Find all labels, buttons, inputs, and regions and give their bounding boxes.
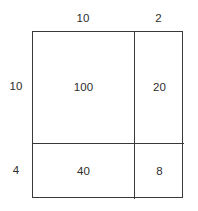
area-model-cell-top-right: 20 [135, 32, 184, 144]
area-model-cell-top-left-value: 100 [74, 82, 94, 94]
area-model-grid: 100 20 40 8 [32, 31, 183, 198]
column-label-top-left-text: 10 [77, 13, 90, 25]
column-label-top-right-text: 2 [155, 13, 162, 25]
row-label-left-bottom: 4 [0, 143, 32, 198]
area-model-cell-bottom-left-value: 40 [77, 166, 90, 178]
area-model-cell-top-right-value: 20 [153, 82, 166, 94]
column-label-top-left: 10 [32, 12, 134, 25]
row-label-left-bottom-text: 4 [13, 165, 20, 177]
area-model-cell-bottom-right: 8 [135, 144, 184, 199]
area-model-cell-bottom-right-value: 8 [156, 166, 163, 178]
row-label-left-top-text: 10 [10, 81, 23, 93]
column-label-top-right: 2 [134, 12, 183, 25]
area-model-diagram: 10 2 10 4 100 20 40 8 [0, 0, 198, 211]
row-label-left-top: 10 [0, 31, 32, 143]
area-model-cell-bottom-left: 40 [33, 144, 135, 199]
area-model-cell-top-left: 100 [33, 32, 135, 144]
